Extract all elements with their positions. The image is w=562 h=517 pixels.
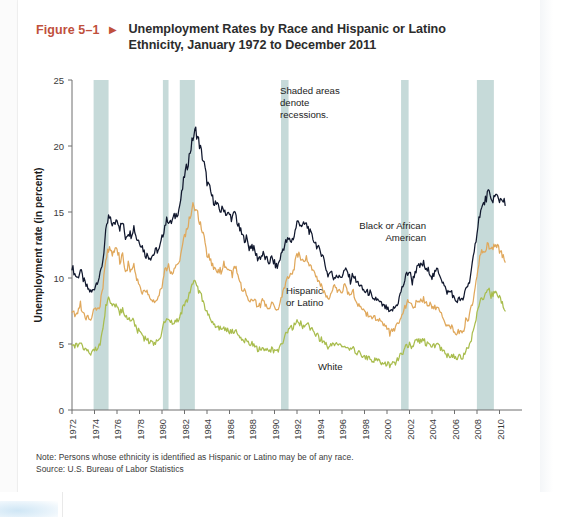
black-series-label: Black or African <box>359 220 426 231</box>
recession-bands-group <box>94 80 494 410</box>
unemployment-line-chart: 0510152025 19721974197619781980198219841… <box>28 70 528 450</box>
hispanic-series-label: or Latino <box>286 297 323 308</box>
y-tick-label: 10 <box>53 273 64 284</box>
recession-band <box>477 80 494 410</box>
y-tick-label: 0 <box>59 405 64 416</box>
x-tick-label: 1988 <box>248 419 258 440</box>
y-tick-label: 20 <box>53 141 64 152</box>
series-lines-group <box>72 127 505 367</box>
series-line <box>72 127 505 311</box>
x-tick-labels-group: 1972197419761978198019821984198619881990… <box>68 410 506 440</box>
y-axis-title: Unemployment rate (in percent) <box>33 167 44 322</box>
x-tick-label: 1978 <box>136 419 146 440</box>
page-root: Figure 5–1▶Unemployment Rates by Race an… <box>0 0 562 517</box>
x-tick-label: 1998 <box>361 419 371 440</box>
recession-note-label: recessions. <box>280 109 329 120</box>
source-text: Source: U.S. Bureau of Labor Statistics <box>36 464 506 476</box>
x-tick-label: 2006 <box>451 419 461 440</box>
page-bottom-strip <box>0 492 562 517</box>
recession-note-label: denote <box>280 97 309 108</box>
recession-band <box>163 80 169 410</box>
y-tick-label: 15 <box>53 207 64 218</box>
x-tick-label: 1976 <box>113 419 123 440</box>
figure-number: Figure 5–1 <box>36 22 100 37</box>
x-tick-label: 1980 <box>158 419 168 440</box>
x-tick-label: 2010 <box>496 419 506 440</box>
page-divider-line <box>62 492 63 517</box>
recession-band <box>94 80 109 410</box>
y-tick-label: 5 <box>59 339 64 350</box>
note-text: Note: Persons whose ethnicity is identif… <box>36 452 506 464</box>
page-edge <box>540 0 562 492</box>
x-tick-label: 2002 <box>406 419 416 440</box>
x-tick-label: 1986 <box>226 419 236 440</box>
x-tick-label: 2008 <box>473 419 483 440</box>
page-corner-tab <box>0 501 58 517</box>
x-tick-label: 2004 <box>428 419 438 440</box>
x-tick-label: 1984 <box>203 419 213 440</box>
hispanic-series-label: Hispanic <box>286 285 323 296</box>
black-series-label: American <box>385 232 426 243</box>
recession-band <box>401 80 409 410</box>
y-tick-labels-group: 0510152025 <box>53 75 72 416</box>
chart-container: 0510152025 19721974197619781980198219841… <box>28 70 528 450</box>
figure-arrow-icon: ▶ <box>100 22 117 35</box>
recession-note-label: Shaded areas <box>280 85 340 96</box>
y-axis-title-group: Unemployment rate (in percent) <box>33 167 44 322</box>
x-tick-label: 1974 <box>91 419 101 440</box>
figure-header: Figure 5–1▶Unemployment Rates by Race an… <box>36 22 516 53</box>
figure-notes: Note: Persons whose ethnicity is identif… <box>36 452 506 475</box>
x-tick-label: 1994 <box>316 419 326 440</box>
white-series-label: White <box>318 361 343 372</box>
y-tick-label: 25 <box>53 75 64 86</box>
figure-title: Unemployment Rates by Race and Hispanic … <box>129 22 489 53</box>
x-tick-label: 1982 <box>181 419 191 440</box>
x-tick-label: 1990 <box>271 419 281 440</box>
x-tick-label: 1996 <box>338 419 348 440</box>
series-line <box>72 203 505 337</box>
x-tick-label: 1972 <box>68 419 78 440</box>
x-tick-label: 2000 <box>383 419 393 440</box>
x-tick-label: 1992 <box>293 419 303 440</box>
